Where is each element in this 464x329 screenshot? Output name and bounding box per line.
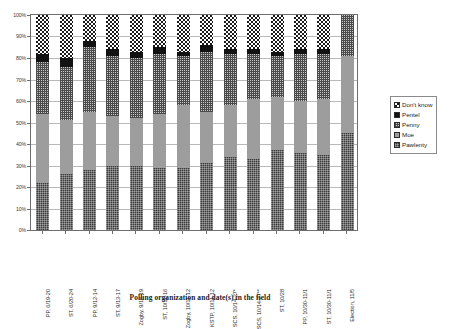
bar-segment[interactable]	[60, 120, 73, 174]
bar-stack[interactable]	[36, 15, 49, 230]
bar-stack[interactable]	[60, 15, 73, 230]
bar-segment[interactable]	[271, 150, 284, 230]
bar-segment[interactable]	[271, 56, 284, 97]
y-axis-tick-label: 80%	[16, 55, 26, 61]
legend-item: Penny	[394, 120, 432, 130]
bar-segment[interactable]	[130, 58, 143, 118]
legend-label: Pawlenty	[402, 142, 427, 148]
bar-stack[interactable]	[317, 15, 330, 230]
plot-area	[30, 14, 358, 231]
bar-segment[interactable]	[36, 62, 49, 114]
bar-segment[interactable]	[130, 15, 143, 52]
bar-segment[interactable]	[153, 168, 166, 230]
y-axis-tick-label: 50%	[16, 120, 26, 126]
bar-segment[interactable]	[36, 183, 49, 230]
bar-stack[interactable]	[341, 15, 354, 230]
legend-item: Don't know	[394, 100, 432, 110]
legend-item: Moe	[394, 130, 432, 140]
bar-segment[interactable]	[341, 133, 354, 230]
bar-segment[interactable]	[224, 105, 237, 157]
bar-segment[interactable]	[317, 99, 330, 155]
bar-segment[interactable]	[153, 54, 166, 114]
bar-segment[interactable]	[177, 56, 190, 105]
bar-segment[interactable]	[106, 56, 119, 116]
bar-segment[interactable]	[60, 67, 73, 121]
bar-segment[interactable]	[271, 97, 284, 151]
bar-segment[interactable]	[247, 99, 260, 159]
bar-segment[interactable]	[247, 15, 260, 49]
bar-segment[interactable]	[36, 114, 49, 183]
bar-segment[interactable]	[83, 47, 96, 112]
bar-segment[interactable]	[224, 54, 237, 106]
bar-segment[interactable]	[341, 15, 354, 56]
bar-segment[interactable]	[294, 15, 307, 49]
bar-segment[interactable]	[177, 15, 190, 52]
bar-stack[interactable]	[177, 15, 190, 230]
x-axis-tick-mark	[135, 231, 136, 234]
bar-segment[interactable]	[200, 112, 213, 164]
x-axis-tick-mark	[206, 231, 207, 234]
bar-segment[interactable]	[247, 159, 260, 230]
bar-segment[interactable]	[153, 114, 166, 168]
bar-segment[interactable]	[177, 168, 190, 230]
gridline	[31, 187, 357, 188]
legend-label: Don't know	[402, 102, 432, 108]
x-axis-tick-mark	[182, 231, 183, 234]
bar-segment[interactable]	[200, 52, 213, 112]
bar-segment[interactable]	[177, 105, 190, 167]
bar-segment[interactable]	[83, 170, 96, 230]
bar-segment[interactable]	[200, 163, 213, 230]
bar-stack[interactable]	[106, 15, 119, 230]
bar-segment[interactable]	[60, 174, 73, 230]
bar-segment[interactable]	[247, 54, 260, 99]
bar-segment[interactable]	[317, 155, 330, 230]
bar-stack[interactable]	[224, 15, 237, 230]
bar-stack[interactable]	[294, 15, 307, 230]
bar-stack[interactable]	[130, 15, 143, 230]
gridline	[31, 58, 357, 59]
legend-swatch-penny-icon	[394, 122, 400, 128]
bar-segment[interactable]	[60, 58, 73, 67]
bar-segment[interactable]	[36, 54, 49, 63]
y-axis: 0%10%20%30%40%50%60%70%80%90%100%	[0, 14, 30, 231]
bar-segment[interactable]	[294, 54, 307, 101]
legend-swatch-moe-icon	[394, 132, 400, 138]
bar-segment[interactable]	[130, 118, 143, 165]
bar-segment[interactable]	[294, 153, 307, 230]
x-axis-tick-mark	[89, 231, 90, 234]
bar-segment[interactable]	[83, 112, 96, 170]
bar-segment[interactable]	[106, 116, 119, 165]
gridline	[31, 80, 357, 81]
bar-segment[interactable]	[60, 15, 73, 58]
legend-item: Pentel	[394, 110, 432, 120]
bar-stack[interactable]	[83, 15, 96, 230]
bar-stack[interactable]	[153, 15, 166, 230]
bar-segment[interactable]	[36, 15, 49, 54]
bar-segment[interactable]	[317, 15, 330, 49]
bar-segment[interactable]	[317, 54, 330, 99]
bar-stack[interactable]	[271, 15, 284, 230]
bar-segment[interactable]	[224, 15, 237, 49]
bar-segment[interactable]	[153, 15, 166, 47]
bar-segment[interactable]	[224, 157, 237, 230]
bar-stack[interactable]	[247, 15, 260, 230]
bar-segment[interactable]	[83, 15, 96, 41]
y-axis-tick-label: 100%	[13, 12, 26, 18]
legend-label: Pentel	[402, 112, 420, 118]
bar-segment[interactable]	[341, 56, 354, 133]
legend-swatch-pentel-icon	[394, 112, 400, 118]
bar-segment[interactable]	[106, 15, 119, 49]
legend-label: Moe	[402, 132, 414, 138]
bar-segment[interactable]	[200, 15, 213, 45]
bar-segment[interactable]	[130, 166, 143, 231]
legend-item: Pawlenty	[394, 140, 432, 150]
x-axis-tick-mark	[65, 231, 66, 234]
x-axis-tick-mark	[299, 231, 300, 234]
bar-segment[interactable]	[106, 166, 119, 231]
bar-segment[interactable]	[271, 15, 284, 52]
y-axis-tick-label: 20%	[16, 184, 26, 190]
bar-segment[interactable]	[294, 101, 307, 153]
y-axis-tick-label: 10%	[16, 206, 26, 212]
bar-stack[interactable]	[200, 15, 213, 230]
